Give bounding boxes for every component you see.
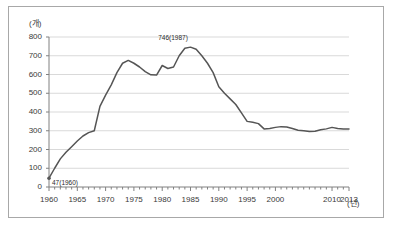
y-tick-label: 800 xyxy=(16,32,42,41)
x-tick-label: 2013 xyxy=(334,195,364,204)
y-tick-label: 600 xyxy=(16,70,42,79)
x-tick-label: 1960 xyxy=(34,195,64,204)
x-tick-label: 1975 xyxy=(119,195,149,204)
x-tick-group xyxy=(49,187,349,191)
y-tick-label: 500 xyxy=(16,88,42,97)
gridline-group xyxy=(46,37,349,187)
x-tick-label: 1970 xyxy=(91,195,121,204)
data-point-marker-group xyxy=(47,176,51,180)
y-tick-label: 100 xyxy=(16,163,42,172)
x-tick-label: 1965 xyxy=(62,195,92,204)
y-tick-label: 700 xyxy=(16,51,42,60)
x-tick-label: 1995 xyxy=(232,195,262,204)
x-tick-label: 2000 xyxy=(260,195,290,204)
x-tick-label: 1980 xyxy=(147,195,177,204)
x-tick-label: 1985 xyxy=(176,195,206,204)
y-tick-label: 0 xyxy=(16,182,42,191)
data-annotation-label: 746(1987) xyxy=(158,34,188,41)
chart-frame: (개) (년) 0100200300400500600700800 196019… xyxy=(8,6,384,218)
y-tick-label: 300 xyxy=(16,126,42,135)
y-tick-label: 400 xyxy=(16,107,42,116)
start-point-marker xyxy=(47,176,51,180)
chart-plot-area: (개) (년) 0100200300400500600700800 196019… xyxy=(9,7,385,219)
y-tick-label: 200 xyxy=(16,145,42,154)
x-tick-label: 1990 xyxy=(204,195,234,204)
line-chart-svg xyxy=(9,7,385,219)
data-annotation-label: 47(1960) xyxy=(52,179,78,186)
data-series-line xyxy=(49,47,349,178)
